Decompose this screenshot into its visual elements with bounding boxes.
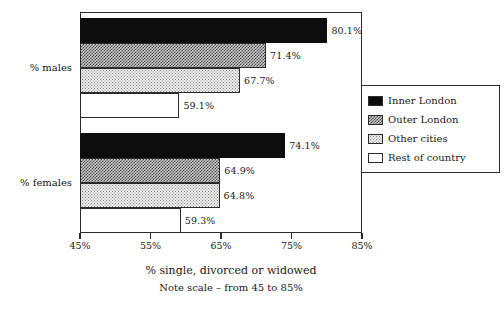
x-axis-tick [291, 233, 292, 239]
x-axis-tick-label: 75% [281, 241, 302, 251]
x-axis-tick-label: 85% [351, 241, 372, 251]
legend-swatch-icon [368, 96, 383, 106]
bar [80, 43, 266, 68]
legend: Inner LondonOuter LondonOther citiesRest… [361, 85, 500, 173]
legend-item: Other cities [368, 129, 493, 148]
bar [80, 93, 179, 118]
legend-swatch-icon [368, 153, 383, 163]
category-label-males: % males [30, 63, 72, 73]
legend-item-label: Outer London [388, 115, 459, 125]
bar-chart-figure: 80.1%71.4%67.7%59.1%74.1%64.9%64.8%59.3%… [0, 0, 504, 309]
x-axis-title: % single, divorced or widowed [0, 265, 462, 276]
legend-item: Outer London [368, 110, 493, 129]
legend-item-label: Other cities [388, 134, 448, 144]
category-label-females: % females [20, 178, 72, 188]
x-axis-tick [220, 233, 221, 239]
bar-value-label: 59.1% [183, 101, 214, 111]
bar-value-label: 71.4% [270, 51, 301, 61]
x-axis-tick-label: 45% [69, 241, 90, 251]
bar-value-label: 74.1% [289, 141, 320, 151]
bar-value-label: 59.3% [185, 216, 216, 226]
legend-item-label: Rest of country [388, 153, 466, 163]
legend-swatch-icon [368, 134, 383, 144]
bar [80, 158, 220, 183]
x-axis-tick-label: 55% [140, 241, 161, 251]
bar [80, 133, 285, 158]
x-axis-tick [361, 233, 362, 239]
bars-layer: 80.1%71.4%67.7%59.1%74.1%64.9%64.8%59.3% [80, 12, 362, 233]
x-axis-tick [150, 233, 151, 239]
bar-value-label: 64.8% [224, 191, 255, 201]
x-axis-tick-label: 65% [210, 241, 231, 251]
bar [80, 18, 327, 43]
legend-swatch-icon [368, 115, 383, 125]
legend-item: Inner London [368, 91, 493, 110]
bar [80, 208, 181, 233]
bar [80, 68, 240, 93]
x-axis-tick [79, 233, 80, 239]
bar-value-label: 64.9% [224, 166, 255, 176]
bar [80, 183, 220, 208]
legend-item-label: Inner London [388, 96, 457, 106]
legend-item: Rest of country [368, 148, 493, 167]
bar-value-label: 80.1% [331, 26, 362, 36]
x-axis-scale-note: Note scale – from 45 to 85% [0, 283, 462, 293]
bar-value-label: 67.7% [244, 76, 275, 86]
